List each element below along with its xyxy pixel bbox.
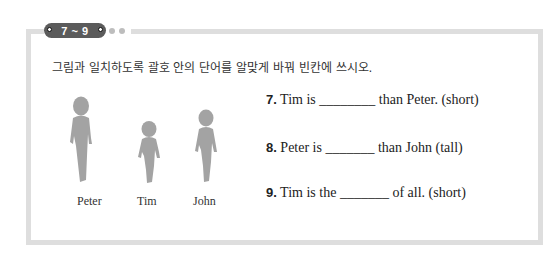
figure-label-tim: Tim [137, 194, 157, 209]
question-7: 7. Tim is ________ than Peter. (short) [266, 92, 479, 108]
exercise-number-badge: 7 ~ 9 [44, 23, 106, 38]
question-9: 9. Tim is the _______ of all. (short) [266, 185, 466, 201]
john-silhouette-icon [193, 108, 221, 184]
question-text-before: Peter is [280, 140, 325, 155]
answer-blank[interactable]: ________ [319, 92, 375, 107]
question-text-before: Tim is [280, 92, 319, 107]
question-text-before: Tim is the [280, 185, 340, 200]
question-number: 7. [266, 92, 277, 107]
question-8: 8. Peter is _______ than John (tall) [266, 140, 463, 156]
decorative-dot-icon [119, 28, 125, 34]
rivet-icon [47, 27, 52, 32]
question-number: 9. [266, 185, 277, 200]
answer-blank[interactable]: _______ [325, 140, 374, 155]
figure-label-peter: Peter [77, 194, 102, 209]
question-text-after: than John (tall) [374, 140, 462, 155]
question-number: 8. [266, 140, 277, 155]
decorative-dot-icon [109, 28, 115, 34]
exercise-number-badge-group: 7 ~ 9 [44, 22, 131, 39]
instruction-text: 그림과 일치하도록 괄호 안의 단어를 알맞게 바꿔 빈칸에 쓰시오. [52, 58, 372, 75]
peter-silhouette-icon [68, 94, 98, 184]
rivet-icon [98, 27, 103, 32]
tim-silhouette-icon [137, 120, 163, 184]
question-text-after: than Peter. (short) [375, 92, 478, 107]
question-text-after: of all. (short) [389, 185, 466, 200]
exercise-range: 7 ~ 9 [61, 25, 88, 37]
answer-blank[interactable]: _______ [340, 185, 389, 200]
figure-label-john: John [193, 194, 216, 209]
